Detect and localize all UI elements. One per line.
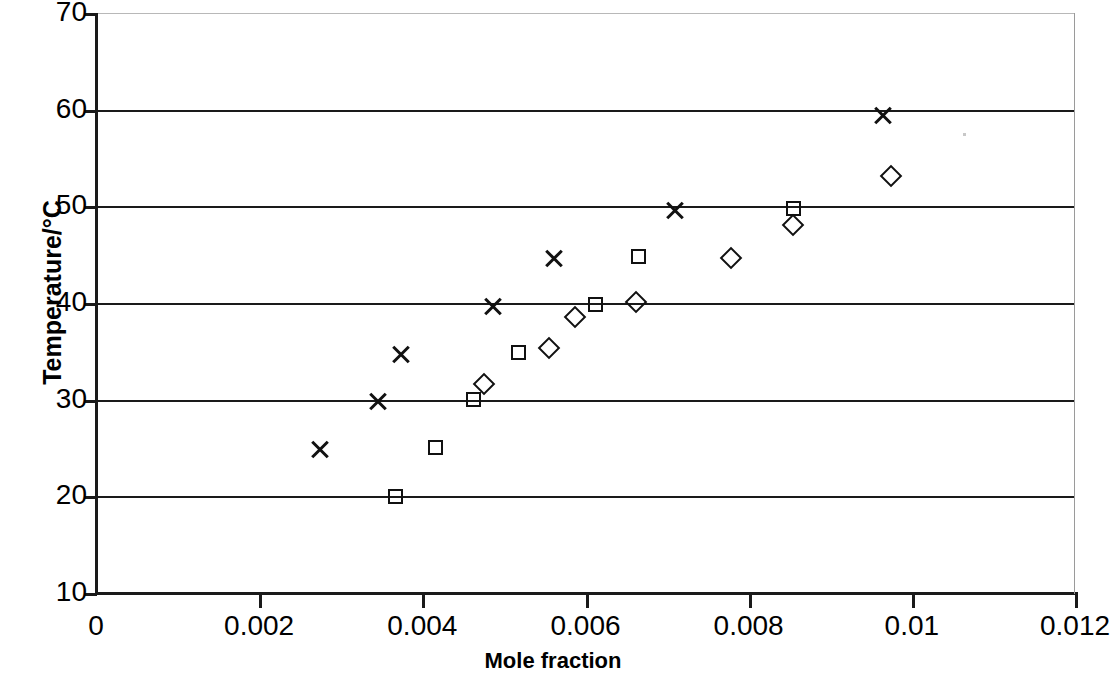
x-tick-label: 0.004 [342, 612, 502, 640]
x-tick-label: 0.012 [995, 612, 1114, 640]
gridline-40 [96, 303, 1075, 305]
x-tick-label: 0.008 [669, 612, 829, 640]
y-tick-label: 60 [27, 95, 87, 123]
x-tick-label: 0.006 [506, 612, 666, 640]
x-tick-label: 0.002 [179, 612, 339, 640]
x-tick-0.002 [259, 592, 262, 608]
plot-area [96, 13, 1075, 593]
x-tick-0.012 [1075, 592, 1078, 608]
x-tick-label: 0.01 [832, 612, 992, 640]
gridline-70 [96, 13, 1075, 14]
x-tick-label: 0 [16, 612, 176, 640]
x-axis-title: Mole fraction [0, 648, 1106, 674]
gridline-50 [96, 206, 1075, 208]
y-tick-label: 50 [27, 191, 87, 219]
y-tick-label: 10 [27, 578, 87, 606]
y-tick-label: 40 [27, 288, 87, 316]
right-spine [1074, 13, 1075, 594]
scan-speck [963, 133, 966, 136]
x-tick-0.006 [586, 592, 589, 608]
x-tick-0.01 [912, 592, 915, 608]
x-tick-0.004 [422, 592, 425, 608]
y-tick-label: 30 [27, 385, 87, 413]
gridline-20 [96, 496, 1075, 498]
gridline-30 [96, 400, 1075, 402]
x-tick-0.008 [749, 592, 752, 608]
y-tick-label: 70 [27, 0, 87, 26]
y-tick-label: 20 [27, 481, 87, 509]
gridline-60 [96, 110, 1075, 112]
